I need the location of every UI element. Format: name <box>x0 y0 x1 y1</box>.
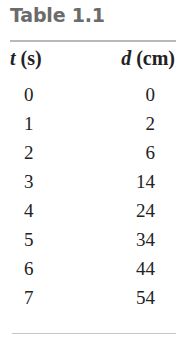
table-row: 12 <box>0 113 185 142</box>
time-cell: 7 <box>24 287 34 309</box>
distance-cell: 14 <box>136 171 155 193</box>
table-title: Table 1.1 <box>10 4 105 26</box>
column-header-time: t (s) <box>10 47 42 70</box>
distance-cell: 34 <box>136 229 155 251</box>
table-row: 644 <box>0 258 185 287</box>
table-row: 00 <box>0 84 185 113</box>
time-cell: 0 <box>24 84 34 106</box>
distance-cell: 2 <box>146 113 156 135</box>
distance-unit: (cm) <box>136 47 175 69</box>
bottom-rule <box>12 333 176 334</box>
table-row: 424 <box>0 200 185 229</box>
distance-cell: 44 <box>136 258 155 280</box>
time-symbol: t <box>10 47 16 69</box>
table-row: 314 <box>0 171 185 200</box>
time-cell: 3 <box>24 171 34 193</box>
table-body: 00 12 26 314 424 534 644 754 <box>0 84 185 316</box>
time-cell: 5 <box>24 229 34 251</box>
table-row: 754 <box>0 287 185 316</box>
distance-cell: 54 <box>136 287 155 309</box>
distance-cell: 6 <box>146 142 156 164</box>
time-cell: 1 <box>24 113 34 135</box>
distance-cell: 24 <box>136 200 155 222</box>
time-cell: 2 <box>24 142 34 164</box>
top-rule <box>10 40 176 42</box>
column-header-distance: d (cm) <box>121 47 175 70</box>
time-cell: 6 <box>24 258 34 280</box>
table-row: 26 <box>0 142 185 171</box>
distance-cell: 0 <box>146 84 156 106</box>
table-row: 534 <box>0 229 185 258</box>
time-cell: 4 <box>24 200 34 222</box>
distance-symbol: d <box>121 47 131 69</box>
time-unit: (s) <box>21 47 42 69</box>
